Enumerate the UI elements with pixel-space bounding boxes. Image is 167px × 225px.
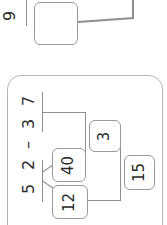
digit-2: 2 bbox=[21, 160, 37, 170]
box-40: 40 bbox=[52, 148, 86, 182]
box-3: 3 bbox=[89, 120, 121, 152]
connector-line bbox=[132, 0, 134, 19]
digit-7: 7 bbox=[21, 96, 37, 106]
minus-sign: – bbox=[20, 141, 36, 149]
box-12-value: 12 bbox=[63, 192, 78, 211]
box-12: 12 bbox=[52, 185, 88, 219]
divider-line bbox=[26, 0, 27, 26]
box-15-value: 15 bbox=[132, 163, 147, 182]
connector-line bbox=[78, 17, 134, 22]
connector-line bbox=[42, 112, 86, 113]
box-40-value: 40 bbox=[62, 155, 77, 174]
connector-line bbox=[88, 200, 121, 201]
answer-box-empty[interactable] bbox=[34, 2, 78, 45]
box-15: 15 bbox=[124, 155, 155, 190]
digit-5: 5 bbox=[21, 184, 37, 194]
problem-number: 9 bbox=[2, 11, 18, 21]
box-3-value: 3 bbox=[97, 131, 112, 141]
digit-3: 3 bbox=[21, 119, 37, 129]
